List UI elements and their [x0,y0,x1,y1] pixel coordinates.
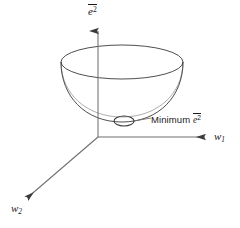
minimum-annotation-label: Minimum e2 [151,113,201,126]
w2-axis-label: w2 [11,203,22,216]
vertical-axis-symbol: e2 [88,4,97,17]
w2-axis-subscript: 2 [18,207,22,216]
minimum-leader-line [134,118,151,121]
w2-axis-line [27,137,98,198]
minimum-text: Minimum [151,114,190,125]
paraboloid-surface [61,45,183,122]
bowl-inner-front-wall [61,62,183,117]
w1-axis-subscript: 1 [221,135,225,144]
figure-canvas [0,0,240,228]
minimum-symbol: e2 [193,113,201,126]
error-surface-figure: e2 w1 w2 Minimum e2 [0,0,240,228]
vertical-axis-label: e2 [88,4,97,17]
vertical-axis-superscript: 2 [93,5,97,14]
bowl-rim-ellipse [61,45,183,79]
minimum-symbol-superscript: 2 [197,114,201,121]
w1-axis-label: w1 [214,131,225,144]
minimum-marker-ellipse [114,116,134,126]
